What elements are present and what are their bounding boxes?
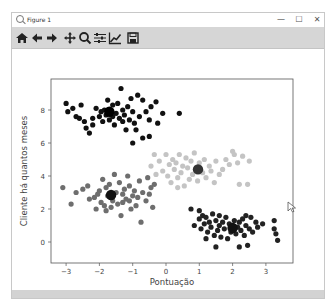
data-point — [202, 157, 207, 162]
data-point — [133, 203, 138, 208]
data-point — [188, 206, 193, 211]
data-point — [94, 106, 99, 111]
data-point — [168, 180, 173, 185]
data-point — [85, 183, 90, 188]
data-point — [237, 182, 242, 187]
data-point — [80, 187, 85, 192]
data-point — [227, 162, 232, 167]
edit-axis-button[interactable] — [108, 30, 122, 46]
data-point — [60, 185, 65, 190]
data-point — [147, 192, 152, 197]
back-button[interactable] — [30, 30, 44, 46]
data-point — [248, 215, 253, 220]
data-point — [130, 140, 135, 145]
data-point — [109, 205, 114, 210]
data-point — [117, 180, 122, 185]
data-point — [95, 192, 100, 197]
scatter-plot[interactable]: −3−2−1012302468PontuaçãoCliente há quant… — [12, 49, 324, 291]
data-point — [148, 104, 153, 109]
data-point — [187, 177, 192, 182]
data-point — [74, 114, 79, 119]
data-point — [157, 159, 162, 164]
data-point — [215, 228, 220, 233]
data-point — [192, 150, 197, 155]
data-point — [118, 213, 123, 218]
data-point — [180, 164, 185, 169]
figure-window: Figure 1 — ☐ ✕ −3−2−1012302468Pont — [11, 12, 325, 299]
data-point — [173, 160, 178, 165]
data-point — [122, 112, 127, 117]
subplots-button[interactable] — [93, 30, 107, 46]
data-point — [132, 188, 137, 193]
data-point — [112, 172, 117, 177]
move-icon — [63, 31, 77, 45]
sliders-icon — [93, 31, 107, 45]
data-point — [182, 183, 187, 188]
status-bar — [12, 290, 324, 298]
data-point — [127, 198, 132, 203]
data-point — [70, 106, 75, 111]
data-point — [203, 236, 208, 241]
data-point — [90, 116, 95, 121]
maximize-button[interactable]: ☐ — [292, 14, 306, 25]
data-point — [105, 98, 110, 103]
home-icon — [15, 31, 29, 45]
data-point — [253, 220, 258, 225]
data-points — [60, 86, 280, 250]
data-point — [155, 121, 160, 126]
data-point — [152, 152, 157, 157]
data-point — [213, 218, 218, 223]
data-point — [247, 159, 252, 164]
minimize-button[interactable]: — — [274, 14, 288, 25]
forward-button[interactable] — [45, 30, 59, 46]
data-point — [122, 187, 127, 192]
data-point — [177, 111, 182, 116]
data-point — [130, 193, 135, 198]
data-point — [175, 175, 180, 180]
data-point — [140, 98, 145, 103]
arrow-left-icon — [30, 31, 44, 45]
data-point — [64, 101, 69, 106]
data-point — [213, 159, 218, 164]
data-point — [208, 225, 213, 230]
x-tick-label: −3 — [61, 268, 71, 276]
centroid-marker — [193, 164, 203, 174]
data-point — [137, 178, 142, 183]
data-point — [97, 114, 102, 119]
data-point — [153, 172, 158, 177]
data-point — [198, 226, 203, 231]
data-point — [90, 122, 95, 127]
zoom-button[interactable] — [78, 30, 92, 46]
x-tick-label: 2 — [230, 268, 234, 276]
data-point — [125, 104, 130, 109]
title-bar[interactable]: Figure 1 — ☐ ✕ — [12, 13, 324, 27]
pan-button[interactable] — [63, 30, 77, 46]
data-point — [145, 175, 150, 180]
data-point — [104, 208, 109, 213]
data-point — [275, 238, 280, 243]
data-point — [69, 202, 74, 207]
y-tick-label: 2 — [41, 206, 45, 214]
x-tick-label: 0 — [164, 268, 168, 276]
data-point — [238, 228, 243, 233]
data-point — [250, 230, 255, 235]
data-point — [140, 190, 145, 195]
data-point — [120, 107, 125, 112]
close-button[interactable]: ✕ — [310, 14, 324, 25]
save-button[interactable] — [126, 30, 140, 46]
data-point — [100, 119, 105, 124]
home-button[interactable] — [15, 30, 29, 46]
data-point — [137, 114, 142, 119]
data-point — [212, 180, 217, 185]
figure-canvas[interactable]: −3−2−1012302468PontuaçãoCliente há quant… — [12, 49, 324, 291]
data-point — [115, 202, 120, 207]
mouse-cursor-icon — [287, 201, 297, 213]
data-point — [163, 152, 168, 157]
data-point — [128, 96, 133, 101]
data-point — [235, 160, 240, 165]
data-point — [240, 154, 245, 159]
data-point — [225, 236, 230, 241]
data-point — [125, 173, 130, 178]
line-chart-icon — [108, 31, 122, 45]
data-point — [223, 215, 228, 220]
